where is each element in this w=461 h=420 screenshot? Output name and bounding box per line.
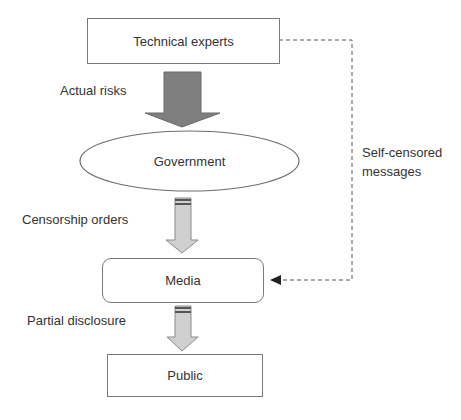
edge-label-actual-risks: Actual risks	[60, 82, 126, 99]
node-technical-experts-label: Technical experts	[133, 34, 233, 49]
edge-label-self-censored-line2: messages	[362, 163, 421, 180]
edge-label-self-censored-line1: Self-censored	[362, 144, 442, 161]
edge-label-censorship-orders: Censorship orders	[22, 211, 128, 228]
node-public: Public	[107, 354, 263, 397]
node-government-label: Government	[154, 154, 226, 169]
arrow-actual-risks	[145, 72, 220, 127]
arrow-partial-disclosure	[167, 306, 198, 351]
node-media: Media	[102, 258, 264, 303]
node-media-label: Media	[165, 273, 200, 288]
edge-label-partial-disclosure: Partial disclosure	[27, 312, 126, 329]
arrow-censorship-orders	[166, 198, 198, 253]
arrowhead-icon	[270, 275, 281, 285]
node-technical-experts: Technical experts	[87, 18, 280, 64]
node-government: Government	[80, 131, 299, 191]
node-public-label: Public	[167, 368, 202, 383]
